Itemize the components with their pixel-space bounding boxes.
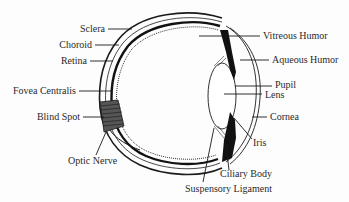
label-blind-spot: Blind Spot bbox=[20, 111, 80, 122]
label-iris: Iris bbox=[253, 137, 266, 148]
label-sclera: Sclera bbox=[60, 23, 105, 34]
eye-diagram: Sclera Choroid Retina Fovea Centralis Bl… bbox=[0, 0, 349, 202]
label-cornea: Cornea bbox=[270, 111, 299, 122]
choroid-shape bbox=[112, 22, 220, 164]
label-optic-nerve: Optic Nerve bbox=[68, 155, 117, 166]
label-vitreous-humor: Vitreous Humor bbox=[263, 30, 328, 41]
sclera-shape bbox=[100, 13, 222, 174]
label-suspensory-ligament: Suspensory Ligament bbox=[185, 183, 272, 194]
retina-shape bbox=[117, 27, 218, 159]
label-choroid: Choroid bbox=[40, 39, 92, 50]
label-fovea-centralis: Fovea Centralis bbox=[0, 85, 76, 96]
label-retina: Retina bbox=[40, 55, 87, 66]
label-ciliary-body: Ciliary Body bbox=[220, 168, 272, 179]
optic-nerve-shape bbox=[100, 100, 140, 150]
label-lens: Lens bbox=[265, 89, 284, 100]
label-aqueous-humor: Aqueous Humor bbox=[272, 54, 338, 65]
